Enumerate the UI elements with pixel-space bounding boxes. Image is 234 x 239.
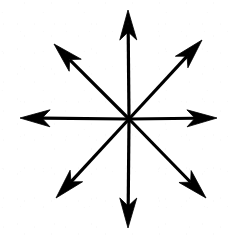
arrow-west-shaft	[42, 118, 129, 119]
arrow-south-shaft	[128, 119, 129, 206]
arrow-east-shaft	[129, 118, 195, 119]
figure-canvas	[0, 0, 234, 239]
arrow-star-diagram	[0, 0, 234, 239]
arrow-north-shaft	[128, 32, 129, 119]
